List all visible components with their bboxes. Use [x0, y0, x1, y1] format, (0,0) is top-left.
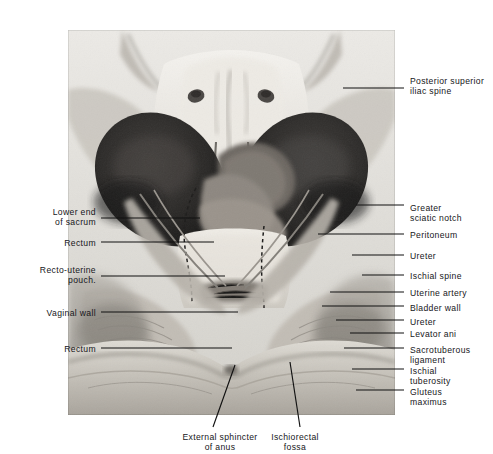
label-ureter-upper: Ureter [410, 251, 436, 261]
label-bladder-wall: Bladder wall [410, 303, 461, 313]
label-rectum-upper: Rectum [0, 238, 96, 248]
label-posterior-superior-iliac-spine: Posterior superior iliac spine [410, 76, 484, 97]
label-ischial-spine: Ischial spine [410, 271, 462, 281]
label-lower-end-of-sacrum: Lower end of sacrum [0, 207, 96, 228]
label-ischial-tuberosity: Ischial tuberosity [410, 366, 451, 387]
label-sacrotuberous-ligament: Sacrotuberous ligament [410, 345, 470, 366]
label-gluteus-maximus: Gluteus maximus [410, 387, 447, 408]
leader-external-sphincter-of-anus [213, 365, 235, 427]
label-greater-sciatic-notch: Greater sciatic notch [410, 203, 462, 224]
label-levator-ani: Levator ani [410, 329, 456, 339]
label-uterine-artery: Uterine artery [410, 288, 467, 298]
label-peritoneum: Peritoneum [410, 230, 457, 240]
label-ischiorectal-fossa: Ischiorectal fossa [235, 432, 355, 453]
label-ureter-lower: Ureter [410, 317, 436, 327]
label-rectum-lower: Rectum [0, 344, 96, 354]
label-vaginal-wall: Vaginal wall [0, 308, 96, 318]
label-recto-uterine-pouch: Recto-uterine pouch. [0, 265, 96, 286]
leader-ischiorectal-fossa [290, 362, 300, 427]
anatomical-plate: Posterior superior iliac spineGreater sc… [0, 0, 493, 454]
